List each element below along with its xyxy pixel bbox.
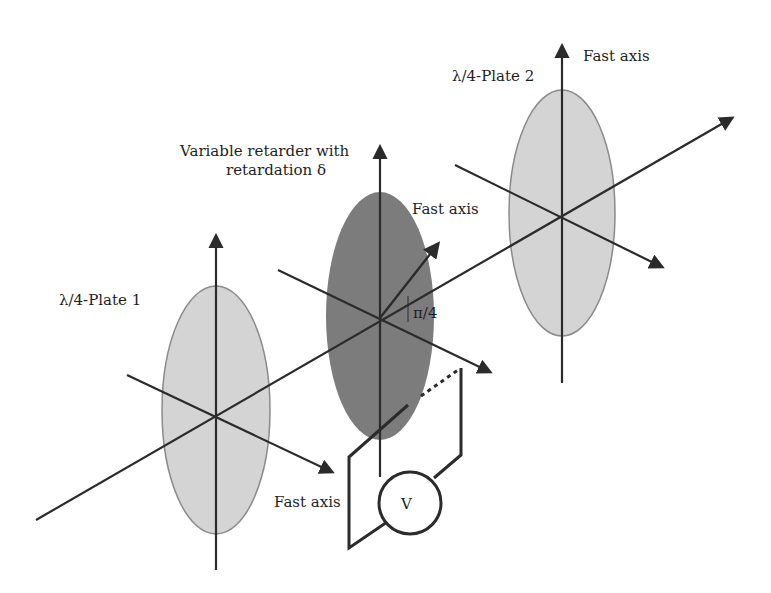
optical-diagram: Fast axis λ/4-Plate 2 Variable retarder …	[0, 0, 771, 593]
circuit-wire-right	[434, 368, 461, 478]
retarder-label-line1: Variable retarder with	[179, 142, 350, 160]
plate-1-fast-axis-label: Fast axis	[274, 493, 341, 511]
optical-axis-arrow	[36, 118, 732, 520]
retarder-fast-axis-label: Fast axis	[412, 200, 479, 218]
angle-label: π/4	[413, 304, 437, 322]
plate-2-label: λ/4-Plate 2	[452, 67, 534, 85]
voltmeter-label: V	[400, 495, 413, 513]
quarter-wave-plate-1	[127, 236, 332, 570]
retarder-label-line2: retardation δ	[226, 161, 326, 179]
plate-2-fast-axis-label: Fast axis	[583, 47, 650, 65]
quarter-wave-plate-2	[455, 46, 662, 383]
plate-1-label: λ/4-Plate 1	[59, 291, 141, 309]
